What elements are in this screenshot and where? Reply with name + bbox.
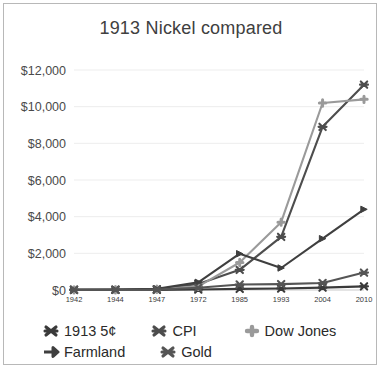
chart-container: 1913 Nickel compared $0$2,000$4,000$6,00… xyxy=(3,3,377,365)
legend-label: Gold xyxy=(181,344,212,360)
data-point-marker xyxy=(360,283,368,289)
legend-item-1913-5[interactable]: 1913 5¢ xyxy=(42,323,116,339)
data-point-marker xyxy=(237,251,243,257)
x-tick-label: 2010 xyxy=(356,295,373,304)
plot-area: $0$2,000$4,000$6,000$8,000$10,000$12,000… xyxy=(4,4,378,366)
series-line xyxy=(74,85,364,290)
y-tick-label: $0 xyxy=(52,284,66,298)
data-point-marker xyxy=(361,96,367,102)
x-tick-label: 1947 xyxy=(149,295,166,304)
legend-row-2: FarmlandGold xyxy=(4,341,378,362)
legend-item-farmland[interactable]: Farmland xyxy=(42,344,125,360)
data-point-marker xyxy=(319,280,327,286)
y-tick-label: $10,000 xyxy=(21,100,66,114)
x-tick-label: 1993 xyxy=(273,295,290,304)
legend-item-gold[interactable]: Gold xyxy=(159,344,212,360)
y-tick-label: $4,000 xyxy=(28,210,66,224)
x-tick-label: 1985 xyxy=(231,295,248,304)
legend-label: Dow Jones xyxy=(265,323,337,339)
y-axis-tick-labels: $0$2,000$4,000$6,000$8,000$10,000$12,000 xyxy=(21,64,66,298)
legend-label: Farmland xyxy=(64,344,125,360)
plus-marker-icon xyxy=(243,324,261,338)
data-point-marker xyxy=(319,100,325,106)
series-farmland xyxy=(71,206,367,293)
chart-svg: $0$2,000$4,000$6,000$8,000$10,000$12,000… xyxy=(4,4,378,366)
chart-legend: 1913 5¢CPIDow Jones FarmlandGold xyxy=(4,320,378,362)
star-marker-icon xyxy=(150,324,168,338)
series-lines xyxy=(70,81,368,293)
series-cpi xyxy=(70,81,368,293)
y-tick-label: $12,000 xyxy=(21,64,66,78)
x-tick-label: 1972 xyxy=(190,295,207,304)
legend-item-dow-jones[interactable]: Dow Jones xyxy=(243,323,337,339)
data-point-marker xyxy=(236,281,244,287)
x-tick-label: 2004 xyxy=(314,295,331,304)
legend-item-cpi[interactable]: CPI xyxy=(150,323,196,339)
data-point-marker xyxy=(277,281,285,287)
data-point-marker xyxy=(236,267,244,273)
arrow-marker-icon xyxy=(42,345,60,359)
legend-row-1: 1913 5¢CPIDow Jones xyxy=(4,320,378,341)
legend-label: 1913 5¢ xyxy=(64,323,116,339)
y-tick-label: $2,000 xyxy=(28,247,66,261)
x-axis-tick-labels: 19421944194719721985199320042010 xyxy=(66,295,373,304)
star-marker-icon xyxy=(42,324,60,338)
data-point-marker xyxy=(360,81,368,87)
x-tick-label: 1944 xyxy=(107,295,124,304)
data-point-marker xyxy=(361,206,367,212)
data-point-marker xyxy=(360,269,368,275)
x-tick-label: 1942 xyxy=(66,295,83,304)
legend-label: CPI xyxy=(172,323,196,339)
y-tick-label: $8,000 xyxy=(28,137,66,151)
y-tick-label: $6,000 xyxy=(28,174,66,188)
star-marker-icon xyxy=(159,345,177,359)
